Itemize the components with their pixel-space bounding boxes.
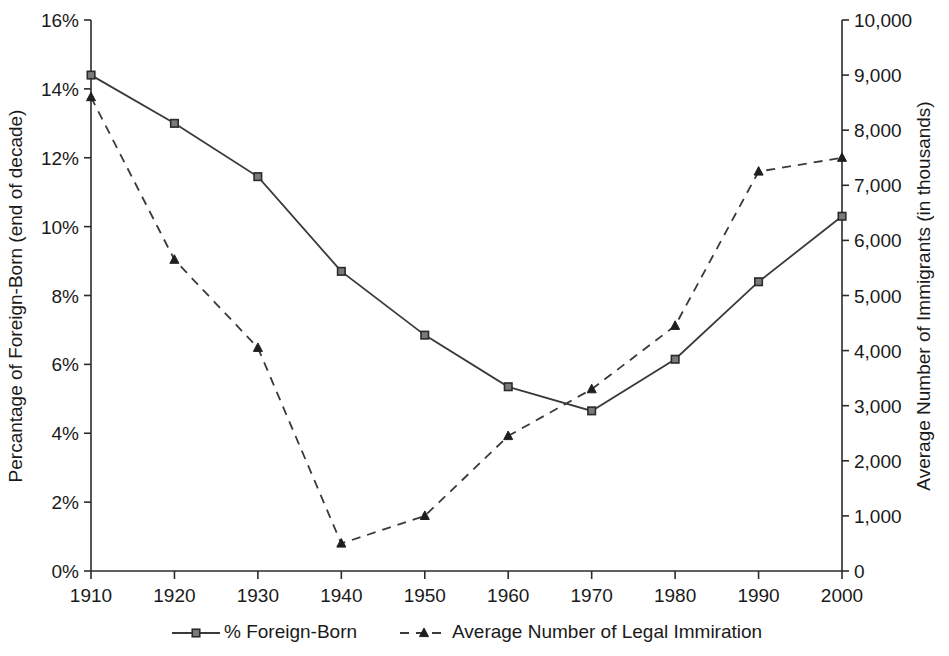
data-point-marker bbox=[338, 268, 346, 276]
legend-item-1[interactable]: % Foreign-Born bbox=[172, 621, 357, 642]
bottom-tick-label: 1990 bbox=[737, 585, 779, 606]
series-1 bbox=[87, 71, 846, 414]
series-line-2 bbox=[91, 97, 842, 543]
data-point-marker bbox=[671, 321, 680, 330]
bottom-axis-ticks: 1910192019301940195019601970198019902000 bbox=[70, 571, 863, 606]
data-point-marker bbox=[755, 278, 763, 286]
left-tick-label: 4% bbox=[52, 423, 80, 444]
data-point-marker bbox=[754, 167, 763, 176]
right-tick-label: 4,000 bbox=[854, 341, 902, 362]
data-point-marker bbox=[254, 173, 262, 181]
right-tick-label: 7,000 bbox=[854, 175, 902, 196]
series-layer bbox=[87, 71, 847, 547]
axis-left: 0%2%4%6%8%10%12%14%16% Percantage of For… bbox=[5, 10, 91, 582]
left-tick-label: 14% bbox=[41, 79, 79, 100]
left-axis-ticks: 0%2%4%6%8%10%12%14%16% bbox=[41, 10, 91, 582]
chart-legend: % Foreign-BornAverage Number of Legal Im… bbox=[172, 621, 762, 642]
series-line-1 bbox=[91, 75, 842, 411]
left-tick-label: 0% bbox=[52, 561, 80, 582]
bottom-tick-label: 1980 bbox=[654, 585, 696, 606]
left-tick-label: 16% bbox=[41, 10, 79, 31]
right-tick-label: 6,000 bbox=[854, 230, 902, 251]
bottom-tick-label: 1910 bbox=[70, 585, 112, 606]
series-2 bbox=[87, 92, 847, 547]
left-tick-label: 6% bbox=[52, 354, 80, 375]
data-point-marker bbox=[421, 331, 429, 339]
data-point-marker bbox=[838, 153, 847, 162]
right-axis-ticks: 01,0002,0003,0004,0005,0006,0007,0008,00… bbox=[842, 10, 912, 582]
data-point-marker bbox=[838, 213, 846, 221]
right-tick-label: 2,000 bbox=[854, 451, 902, 472]
line-chart-plot: 0%2%4%6%8%10%12%14%16% Percantage of For… bbox=[0, 0, 949, 656]
data-point-marker bbox=[671, 356, 679, 364]
data-point-marker bbox=[588, 407, 596, 415]
data-point-marker bbox=[171, 120, 179, 128]
left-tick-label: 12% bbox=[41, 148, 79, 169]
data-point-marker bbox=[504, 431, 513, 440]
chart-container: 0%2%4%6%8%10%12%14%16% Percantage of For… bbox=[0, 0, 949, 656]
bottom-tick-label: 2000 bbox=[821, 585, 863, 606]
legend-label-1: % Foreign-Born bbox=[224, 621, 357, 642]
legend-marker-square-icon bbox=[192, 629, 200, 637]
right-tick-label: 10,000 bbox=[854, 10, 912, 31]
data-point-marker bbox=[87, 92, 96, 101]
axis-right: 01,0002,0003,0004,0005,0006,0007,0008,00… bbox=[842, 10, 934, 582]
right-tick-label: 5,000 bbox=[854, 286, 902, 307]
bottom-tick-label: 1970 bbox=[571, 585, 613, 606]
left-tick-label: 10% bbox=[41, 217, 79, 238]
right-tick-label: 8,000 bbox=[854, 120, 902, 141]
left-tick-label: 8% bbox=[52, 286, 80, 307]
bottom-tick-label: 1920 bbox=[153, 585, 195, 606]
axis-bottom: 1910192019301940195019601970198019902000 bbox=[70, 571, 863, 606]
bottom-tick-label: 1960 bbox=[487, 585, 529, 606]
bottom-tick-label: 1930 bbox=[237, 585, 279, 606]
right-tick-label: 3,000 bbox=[854, 396, 902, 417]
right-axis-title: Average Number of Immigrants (in thousan… bbox=[913, 101, 934, 490]
data-point-marker bbox=[587, 384, 596, 393]
data-point-marker bbox=[505, 383, 513, 391]
legend-label-2: Average Number of Legal Immiration bbox=[452, 621, 762, 642]
data-point-marker bbox=[170, 255, 179, 264]
right-tick-label: 0 bbox=[854, 561, 865, 582]
data-point-marker bbox=[253, 343, 262, 352]
bottom-tick-label: 1950 bbox=[404, 585, 446, 606]
right-tick-label: 9,000 bbox=[854, 65, 902, 86]
bottom-tick-label: 1940 bbox=[320, 585, 362, 606]
right-tick-label: 1,000 bbox=[854, 506, 902, 527]
left-axis-title: Percantage of Foreign-Born (end of decad… bbox=[5, 110, 26, 483]
data-point-marker bbox=[87, 71, 95, 79]
legend-item-2[interactable]: Average Number of Legal Immiration bbox=[400, 621, 762, 642]
left-tick-label: 2% bbox=[52, 492, 80, 513]
